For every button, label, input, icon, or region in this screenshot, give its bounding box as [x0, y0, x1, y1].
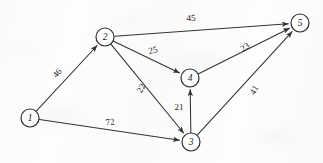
edge-weight-1-to-3: 72	[105, 116, 115, 127]
node-label-4: 4	[188, 73, 193, 83]
graph-node-4[interactable]: 4	[181, 69, 199, 87]
edge-weight-2-to-3: 22	[134, 82, 147, 95]
graph-node-2[interactable]: 2	[96, 28, 114, 46]
graph-edge-1-to-2	[37, 46, 98, 111]
graph-figure: 12345 4672452522214123	[0, 0, 323, 163]
edge-weight-2-to-5: 45	[186, 13, 196, 24]
edge-weight-3-to-5: 41	[247, 84, 260, 97]
edges-layer	[37, 24, 293, 140]
edge-weight-4-to-5: 23	[239, 40, 252, 54]
edge-weight-1-to-2: 46	[50, 66, 64, 80]
edge-weight-3-to-4: 21	[175, 102, 184, 112]
graph-node-3[interactable]: 3	[182, 133, 200, 151]
graph-node-1[interactable]: 1	[21, 109, 39, 127]
graph-node-5[interactable]: 5	[291, 14, 309, 32]
node-label-2: 2	[103, 32, 108, 42]
edge-weight-2-to-4: 25	[147, 44, 159, 56]
edge-weights-layer: 4672452522214123	[50, 13, 260, 128]
nodes-layer: 12345	[21, 14, 309, 151]
node-label-3: 3	[188, 137, 194, 147]
graph-edge-3-to-4	[190, 90, 191, 133]
node-label-5: 5	[298, 18, 303, 28]
graph-canvas: 12345 4672452522214123	[0, 0, 323, 163]
node-label-1: 1	[28, 113, 33, 123]
graph-edge-2-to-5	[115, 24, 289, 36]
